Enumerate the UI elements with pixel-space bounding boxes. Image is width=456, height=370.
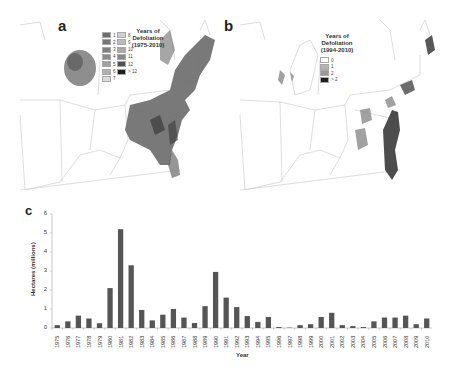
bar	[65, 321, 70, 328]
x-tick-label: 2004	[360, 336, 366, 348]
x-tick-label: 1998	[297, 336, 303, 348]
bar-chart-plot	[0, 0, 456, 370]
bar	[276, 327, 281, 328]
x-tick-label: 2002	[339, 336, 345, 348]
x-tick-label: 1987	[181, 336, 187, 348]
bar	[86, 319, 91, 329]
x-tick-label: 1978	[86, 336, 92, 348]
x-tick-label: 2003	[350, 336, 356, 348]
bar	[224, 298, 229, 328]
bar	[329, 313, 334, 328]
x-tick-label: 1983	[139, 336, 145, 348]
bar	[97, 323, 102, 328]
x-tick-label: 1976	[65, 336, 71, 348]
x-tick-label: 1979	[97, 336, 103, 348]
bar	[340, 325, 345, 328]
x-tick-label: 1996	[276, 336, 282, 348]
x-tick-label: 1995	[265, 336, 271, 348]
bar	[414, 324, 419, 328]
bar	[202, 306, 207, 328]
bar	[213, 272, 218, 328]
x-tick-label: 1993	[244, 336, 250, 348]
y-tick-label: 1	[37, 305, 47, 311]
x-tick-label: 1999	[308, 336, 314, 348]
bar	[403, 316, 408, 328]
x-tick-label: 2010	[424, 336, 430, 348]
x-tick-label: 1982	[128, 336, 134, 348]
bar	[107, 288, 112, 328]
bar	[160, 315, 165, 328]
x-axis-title: Year	[236, 352, 249, 358]
x-tick-label: 1981	[118, 336, 124, 348]
bar	[371, 321, 376, 328]
bar	[234, 307, 239, 328]
bar	[266, 317, 271, 328]
x-tick-label: 1980	[107, 336, 113, 348]
x-tick-label: 2009	[413, 336, 419, 348]
bar	[129, 265, 134, 328]
bar	[308, 324, 313, 328]
y-tick-label: 2	[37, 286, 47, 292]
y-tick-label: 0	[37, 324, 47, 330]
x-tick-label: 2008	[403, 336, 409, 348]
y-tick-label: 4	[37, 248, 47, 254]
x-tick-label: 2001	[329, 336, 335, 348]
bar	[118, 229, 123, 328]
bar	[350, 326, 355, 328]
x-tick-label: 1997	[287, 336, 293, 348]
x-tick-label: 1994	[255, 336, 261, 348]
x-tick-label: 1990	[213, 336, 219, 348]
bar	[139, 310, 144, 328]
x-tick-label: 2006	[382, 336, 388, 348]
x-tick-label: 1989	[202, 336, 208, 348]
bar	[319, 317, 324, 328]
bar	[245, 316, 250, 328]
bar	[55, 325, 60, 328]
x-tick-label: 1991	[223, 336, 229, 348]
y-axis-title: Hectares (millions)	[30, 242, 36, 296]
x-tick-label: 1988	[192, 336, 198, 348]
x-tick-label: 1986	[170, 336, 176, 348]
y-tick-label: 3	[37, 267, 47, 273]
x-tick-label: 1984	[149, 336, 155, 348]
x-tick-label: 1992	[234, 336, 240, 348]
bar	[76, 316, 81, 328]
bar	[361, 327, 366, 328]
y-tick-label: 5	[37, 229, 47, 235]
x-tick-label: 2007	[392, 336, 398, 348]
bar	[192, 323, 197, 328]
bar	[150, 320, 155, 328]
bar	[181, 318, 186, 328]
bar	[392, 318, 397, 328]
bar	[255, 322, 260, 328]
x-tick-label: 2000	[318, 336, 324, 348]
bar	[171, 309, 176, 328]
x-tick-label: 1985	[160, 336, 166, 348]
x-tick-label: 1977	[75, 336, 81, 348]
x-tick-label: 2005	[371, 336, 377, 348]
bar	[382, 318, 387, 328]
bar	[424, 319, 429, 329]
x-tick-label: 1975	[54, 336, 60, 348]
bar	[297, 325, 302, 328]
y-tick-label: 6	[37, 210, 47, 216]
